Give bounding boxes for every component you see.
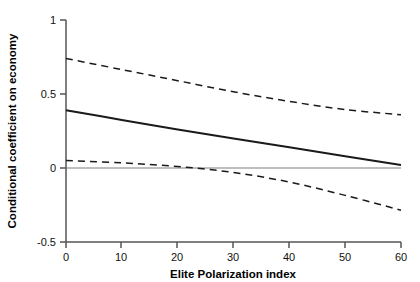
y-tick-label-0-5: 0.5 [41,88,56,100]
y-tick-label-minus-0-5: -0.5 [37,236,56,248]
x-tick-label-50: 50 [339,251,351,263]
x-tick-label-40: 40 [283,251,295,263]
y-tick-label-1: 1 [50,14,56,26]
x-tick-label-60: 60 [395,251,407,263]
conditional-coefficient-line-chart: 1 0.5 0 -0.5 0 10 20 30 40 50 60 Elite P… [0,0,420,282]
x-tick-label-30: 30 [227,251,239,263]
x-tick-label-10: 10 [115,251,127,263]
x-axis-title: Elite Polarization index [170,268,296,280]
y-tick-label-0: 0 [50,162,56,174]
chart-background [0,0,420,282]
x-tick-label-20: 20 [171,251,183,263]
x-tick-label-0: 0 [63,251,69,263]
chart-figure: 1 0.5 0 -0.5 0 10 20 30 40 50 60 Elite P… [0,0,420,282]
y-axis-title: Conditional coefficient on economy [6,33,18,228]
